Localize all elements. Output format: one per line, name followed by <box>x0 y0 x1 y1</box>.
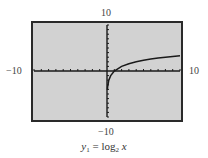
xmax-label: 10 <box>189 66 199 76</box>
caption-x: x <box>119 140 127 152</box>
ymax-label: 10 <box>101 8 111 18</box>
function-caption: y1 = log2 x <box>0 140 208 156</box>
caption-eq: = log <box>90 140 116 152</box>
ymin-label: −10 <box>98 127 114 137</box>
xmin-label: −10 <box>6 66 22 76</box>
